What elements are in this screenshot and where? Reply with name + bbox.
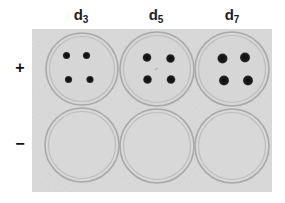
row-label-minus: − xyxy=(12,136,28,152)
colony-spot xyxy=(218,54,228,64)
column-label-base: d xyxy=(149,6,158,23)
colony-spot xyxy=(86,76,93,83)
plate-minus-d3 xyxy=(45,108,119,182)
plate-plus-d5 xyxy=(120,32,194,106)
plate-plus-d7 xyxy=(195,32,269,106)
colony-spot xyxy=(167,75,176,84)
column-label-d5: d5 xyxy=(141,6,171,25)
plate-photo-panel xyxy=(32,29,272,192)
column-label-subscript: 5 xyxy=(158,14,164,25)
colony-spot xyxy=(63,52,70,59)
colony-spot xyxy=(166,54,175,63)
column-label-subscript: 7 xyxy=(234,14,240,25)
plate-minus-d7 xyxy=(195,109,269,183)
column-label-base: d xyxy=(74,6,83,23)
colony-spot xyxy=(243,76,253,86)
column-label-d3: d3 xyxy=(66,6,96,25)
column-label-base: d xyxy=(225,6,234,23)
plate-minus-d5 xyxy=(120,109,194,183)
plate-plus-d3 xyxy=(46,33,118,105)
column-label-d7: d7 xyxy=(217,6,247,25)
colony-spot xyxy=(143,75,152,84)
colony-spot xyxy=(240,53,250,63)
colony-spot xyxy=(143,53,152,62)
column-label-subscript: 3 xyxy=(83,14,89,25)
colony-spot xyxy=(65,76,72,83)
colony-spot xyxy=(83,52,90,59)
row-label-plus: + xyxy=(12,60,28,76)
colony-spot xyxy=(219,76,229,86)
